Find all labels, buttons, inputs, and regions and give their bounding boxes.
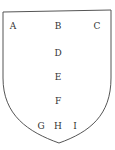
point-e: E xyxy=(55,73,62,82)
point-h: H xyxy=(54,122,62,131)
point-g: G xyxy=(37,122,44,131)
point-f: F xyxy=(55,97,61,106)
point-i: I xyxy=(73,122,77,131)
point-c: C xyxy=(94,22,101,31)
point-a: A xyxy=(10,22,17,31)
point-d: D xyxy=(54,49,61,58)
point-b: B xyxy=(55,22,62,31)
